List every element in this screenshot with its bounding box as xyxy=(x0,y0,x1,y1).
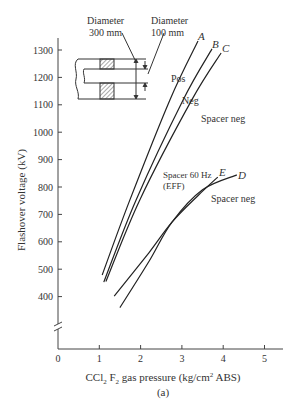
y-tick-label: 1000 xyxy=(33,127,53,138)
y-axis xyxy=(54,38,62,349)
curve-label-b: B xyxy=(212,38,219,50)
x-tick-label: 0 xyxy=(56,353,61,364)
y-tick-label: 700 xyxy=(38,209,53,220)
label-eff: (EFF) xyxy=(163,181,185,191)
y-axis-label: Flashover voltage (kV) xyxy=(15,149,28,251)
spacer-top xyxy=(100,59,114,69)
x-tick-label: 2 xyxy=(138,353,143,364)
y-tick-label: 400 xyxy=(38,291,53,302)
spacer-bottom xyxy=(100,83,114,99)
figure-caption: (a) xyxy=(157,386,170,399)
curve-label-d: D xyxy=(237,169,246,181)
curve-label-e: E xyxy=(218,166,226,178)
y-tick-label: 1200 xyxy=(33,72,53,83)
insulator-diagram xyxy=(75,33,164,99)
curve-c xyxy=(106,53,221,282)
x-tick-label: 1 xyxy=(97,353,102,364)
x-ticks: 012345 xyxy=(56,345,268,364)
y-tick-label: 500 xyxy=(38,264,53,275)
curve-label-c: C xyxy=(222,42,230,54)
label-neg: Neg xyxy=(182,95,199,106)
diameter-300-label: Diameter xyxy=(87,15,125,26)
y-tick-label: 1100 xyxy=(33,99,53,110)
chart: 012345 400500600700800900100011001200130… xyxy=(0,0,300,414)
x-axis-label: CCl2 F2 gas pressure (kg/cm2 ABS) xyxy=(85,371,240,386)
x-tick-label: 5 xyxy=(262,353,267,364)
y-tick-label: 600 xyxy=(38,236,53,247)
label-spacer-neg-lower: Spacer neg xyxy=(211,193,255,204)
label-spacer-60hz: Spacer 60 Hz xyxy=(163,170,211,180)
curve-e xyxy=(114,177,218,296)
label-spacer-neg-upper: Spacer neg xyxy=(201,113,245,124)
curve-label-a: A xyxy=(197,30,205,42)
y-tick-label: 1300 xyxy=(33,45,53,56)
diameter-100-label: Diameter xyxy=(151,15,189,26)
curve-labels: A B C Pos Neg Spacer neg Spacer 60 Hz (E… xyxy=(163,30,255,204)
label-pos: Pos xyxy=(171,73,186,84)
y-tick-label: 800 xyxy=(38,182,53,193)
x-tick-label: 3 xyxy=(179,353,184,364)
diagram-labels: Diameter 300 mm Diameter 100 mm xyxy=(87,15,189,38)
diameter-300-value: 300 mm xyxy=(89,27,122,38)
y-tick-label: 900 xyxy=(38,154,53,165)
diameter-100-value: 100 mm xyxy=(151,27,184,38)
x-tick-label: 4 xyxy=(221,353,226,364)
